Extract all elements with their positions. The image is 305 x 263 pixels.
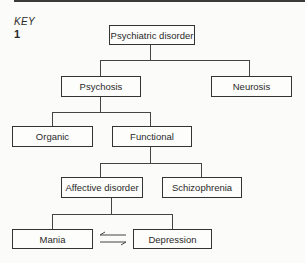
bidirectional-arrow-icon [0, 0, 305, 263]
